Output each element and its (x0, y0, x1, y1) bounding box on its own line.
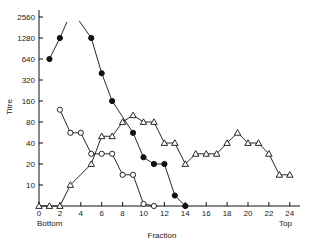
open-circle-marker (151, 203, 156, 208)
y-tick-label: 10 (26, 181, 35, 190)
filled-circle-marker (110, 98, 115, 103)
open-circle-marker (130, 172, 135, 177)
open-circle-marker (141, 201, 146, 206)
open-triangle-marker (88, 161, 94, 167)
filled-circle-marker (151, 161, 156, 166)
filled-circle-marker (99, 71, 104, 76)
y-tick-label: 320 (22, 76, 36, 85)
y-tick-label: 2560 (17, 13, 35, 22)
y-tick-label: 80 (26, 118, 35, 127)
series-filled-circle (47, 21, 188, 209)
y-tick-label: 640 (22, 55, 36, 64)
open-circle-marker (99, 151, 104, 156)
open-triangle-marker (130, 112, 136, 118)
x-tick-label: 22 (264, 209, 273, 218)
x-tick-label: 20 (244, 209, 253, 218)
open-circle-marker (57, 107, 62, 112)
x-tick-label: 6 (99, 209, 104, 218)
y-tick-label: 1280 (17, 34, 35, 43)
filled-circle-marker (172, 193, 177, 198)
axes: 1020408016032064012802560024681012141618… (17, 10, 300, 218)
filled-circle-marker (57, 35, 62, 40)
filled-circle-marker (141, 155, 146, 160)
series-layer (36, 21, 293, 209)
open-circle-marker (89, 151, 94, 156)
open-circle-marker (68, 130, 73, 135)
titre-vs-fraction-chart: 1020408016032064012802560024681012141618… (0, 0, 312, 245)
x-tick-label: 8 (120, 209, 125, 218)
series-open-triangle (36, 112, 293, 208)
open-triangle-marker (234, 130, 240, 136)
y-tick-label: 20 (26, 160, 35, 169)
open-circle-marker (78, 130, 83, 135)
y-tick-label: 40 (26, 139, 35, 148)
filled-circle-marker (130, 130, 135, 135)
x-axis-title: Fraction (148, 231, 177, 240)
filled-circle-marker (183, 203, 188, 208)
x-axis-right-end-label: Top (279, 219, 292, 228)
x-tick-label: 18 (223, 209, 232, 218)
x-tick-label: 14 (181, 209, 190, 218)
filled-circle-marker (89, 35, 94, 40)
filled-circle-marker (47, 56, 52, 61)
x-axis-left-end-label: Bottom (37, 219, 63, 228)
x-tick-label: 4 (79, 209, 84, 218)
x-tick-label: 10 (139, 209, 148, 218)
x-tick-label: 16 (202, 209, 211, 218)
x-tick-label: 2 (58, 209, 63, 218)
x-tick-label: 12 (160, 209, 169, 218)
x-tick-label: 24 (285, 209, 294, 218)
y-tick-label: 160 (22, 97, 36, 106)
y-axis-title: Titre (5, 99, 14, 115)
open-circle-marker (120, 172, 125, 177)
x-tick-label: 0 (37, 209, 42, 218)
open-circle-marker (110, 151, 115, 156)
filled-circle-marker (162, 161, 167, 166)
